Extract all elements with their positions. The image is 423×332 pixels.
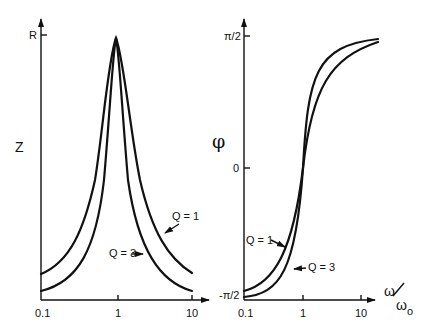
svg-text:ω: ω <box>396 297 407 313</box>
left-legend-q1-arrow <box>165 224 179 233</box>
left-x-tick-1: 1 <box>115 307 121 319</box>
right-y-label: φ <box>212 130 225 152</box>
left-panel-impedance: R Z 0.1 1 10 Q = 1 Q = 3 <box>15 19 209 319</box>
right-panel-phase: π/2 0 -π/2 φ 0.1 1 10 ω ω o Q = 1 Q = 3 <box>212 19 413 319</box>
figure: R Z 0.1 1 10 Q = 1 Q = 3 π/2 0 -π/2 φ 0.… <box>0 0 423 332</box>
left-y-label: Z <box>15 139 24 155</box>
right-x-label: ω ω o <box>384 283 413 317</box>
right-x-tick-10: 10 <box>355 307 367 319</box>
svg-text:ω: ω <box>384 283 395 299</box>
right-curve-q1 <box>244 42 378 291</box>
right-x-tick-0.1: 0.1 <box>238 307 253 319</box>
right-x-tick-1: 1 <box>300 307 306 319</box>
right-legend-q3-arrow <box>294 268 306 269</box>
right-y-tick-bottom: -π/2 <box>219 289 239 301</box>
left-legend-q1: Q = 1 <box>172 210 199 222</box>
right-y-tick-top: π/2 <box>224 30 241 42</box>
left-y-tick-r: R <box>29 29 37 41</box>
right-y-tick-mid: 0 <box>233 162 239 174</box>
right-legend-q1: Q = 1 <box>246 234 273 246</box>
left-x-tick-10: 10 <box>186 307 198 319</box>
svg-text:o: o <box>407 305 413 317</box>
right-legend-q3: Q = 3 <box>308 261 335 273</box>
right-curve-q3 <box>244 39 378 297</box>
left-curve-q1 <box>41 38 192 274</box>
left-legend-q3: Q = 3 <box>109 247 136 259</box>
left-x-tick-0.1: 0.1 <box>35 307 50 319</box>
